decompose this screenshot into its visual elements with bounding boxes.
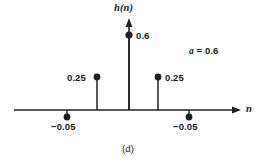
parameter-annotation: a = 0.6 [189,45,219,56]
parameter-annotation-value: 0.6 [205,45,219,56]
stem-sample-pos1 [155,74,162,110]
stem-sample-neg2 [64,110,71,120]
value-label-left-negative: −0.05 [51,121,76,132]
value-label-left-positive: 0.25 [67,72,86,83]
y-axis-label: h(n) [114,2,133,13]
value-label-right-negative: −0.05 [173,121,198,132]
stem-plot [0,0,263,165]
figure-caption: (d) [122,143,134,154]
stem-sample-neg1 [94,74,101,110]
value-label-peak: 0.6 [136,30,150,41]
x-axis-label: n [246,103,252,114]
stem-sample-zero [125,31,132,110]
x-axis [14,107,241,114]
stem-sample-pos2 [186,110,193,120]
parameter-annotation-equals: = [194,45,205,56]
value-label-right-positive: 0.25 [165,72,184,83]
figure-container: h(n) n 0.6 0.25 0.25 −0.05 −0.05 a = 0.6… [0,0,263,165]
